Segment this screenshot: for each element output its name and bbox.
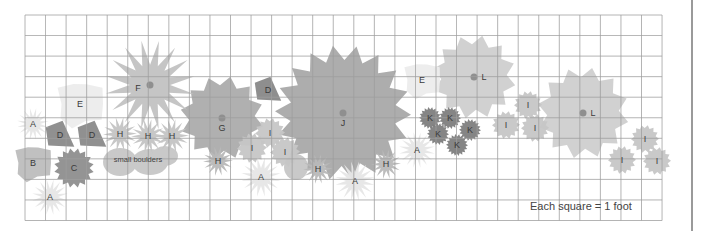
plant-label: C [71, 163, 78, 173]
plant-label: K [454, 140, 460, 150]
plant-label: B [30, 158, 36, 168]
plant-label: I [621, 155, 624, 165]
plant-center-dot [340, 110, 347, 117]
garden-plan: JGFLLEEDDDCBAAAAAHHHHHHIIIIIIIIIKKKKKsma… [0, 0, 702, 231]
plant-label: K [447, 113, 453, 123]
plant-label: I [269, 128, 272, 138]
plant-label: A [258, 172, 264, 182]
scale-note: Each square = 1 foot [530, 200, 632, 212]
plant-label: L [481, 72, 486, 82]
plant-label: I [656, 156, 659, 166]
plant-label: D [57, 130, 64, 140]
plant-label: I [284, 147, 287, 157]
plant-label: G [218, 123, 225, 133]
plant-label: A [30, 119, 36, 129]
plant-center-dot [147, 82, 154, 89]
plant-label: I [527, 100, 530, 110]
plant-label: L [590, 108, 595, 118]
plant-label: E [77, 99, 83, 109]
plant-label: D [265, 85, 272, 95]
plant-label: A [414, 145, 420, 155]
plant-label: H [145, 131, 152, 141]
annotation-text: small boulders [114, 155, 163, 164]
plant-label: H [315, 164, 322, 174]
plant-label: K [435, 129, 441, 139]
plant-label: I [534, 123, 537, 133]
page-border [691, 0, 693, 231]
plant-label: H [117, 129, 124, 139]
plant-label: H [169, 131, 176, 141]
plant-label: H [215, 156, 222, 166]
plant-label: F [135, 83, 141, 93]
plant-label: I [505, 120, 508, 130]
plant-label: E [419, 75, 425, 85]
plant-label: J [341, 118, 346, 128]
plant-label: K [467, 125, 473, 135]
plant-label: K [427, 113, 433, 123]
plant-label: I [251, 143, 254, 153]
plant-label: I [644, 134, 647, 144]
plant-label: A [47, 192, 53, 202]
plant-label: D [89, 130, 96, 140]
plant-center-dot [580, 110, 587, 117]
plant-label: H [383, 159, 390, 169]
plant-label: A [352, 176, 358, 186]
